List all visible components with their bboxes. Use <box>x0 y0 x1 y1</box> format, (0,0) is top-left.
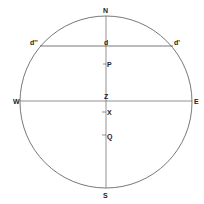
diagram-canvas: N S W E Z d d' d'' P X Q <box>0 0 204 204</box>
label-d-double-prime: d'' <box>30 39 38 46</box>
label-west: W <box>13 98 20 105</box>
label-east: E <box>194 98 199 105</box>
label-south: S <box>103 192 108 199</box>
label-p: P <box>107 61 112 68</box>
label-d: d <box>104 39 108 46</box>
label-q: Q <box>107 133 113 141</box>
label-x: X <box>107 109 112 116</box>
label-zenith: Z <box>104 93 109 100</box>
label-d-prime: d' <box>174 39 180 46</box>
label-north: N <box>103 7 108 14</box>
